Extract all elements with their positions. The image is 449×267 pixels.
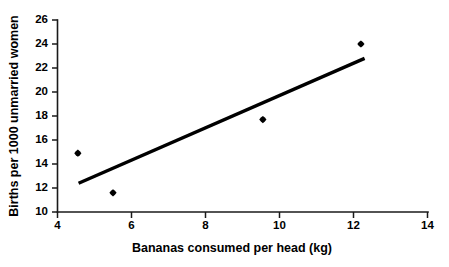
plot-area: 10 12 14 16 18 20 22 24 26 4 6 8 10 12 1… [0, 0, 449, 267]
y-tick-label: 14 [35, 157, 48, 169]
x-tick-label: 10 [273, 219, 286, 231]
regression-line [79, 58, 365, 183]
data-point [357, 40, 364, 47]
x-tick-marks [58, 212, 428, 218]
x-tick-labels: 4 6 8 10 12 14 [54, 219, 434, 231]
y-tick-label: 16 [35, 133, 48, 145]
y-tick-label: 26 [35, 13, 48, 25]
y-tick-labels: 10 12 14 16 18 20 22 24 26 [35, 13, 48, 217]
data-point [74, 150, 81, 157]
x-tick-label: 6 [128, 219, 134, 231]
x-axis-title: Bananas consumed per head (kg) [132, 241, 332, 255]
x-tick-label: 12 [347, 219, 360, 231]
data-point [259, 116, 266, 123]
y-tick-label: 18 [35, 109, 48, 121]
x-tick-label: 14 [421, 219, 434, 231]
y-tick-label: 24 [35, 37, 48, 49]
data-point [109, 189, 116, 196]
y-tick-label: 10 [35, 205, 48, 217]
y-tick-label: 12 [35, 181, 48, 193]
scatter-chart: 10 12 14 16 18 20 22 24 26 4 6 8 10 12 1… [0, 0, 449, 267]
y-tick-marks [52, 20, 58, 212]
x-tick-label: 8 [202, 219, 209, 231]
y-axis-title: Births per 1000 unmarried women [7, 15, 21, 216]
x-tick-label: 4 [54, 219, 61, 231]
data-points [74, 40, 364, 196]
y-tick-label: 22 [35, 61, 48, 73]
y-tick-label: 20 [35, 85, 48, 97]
